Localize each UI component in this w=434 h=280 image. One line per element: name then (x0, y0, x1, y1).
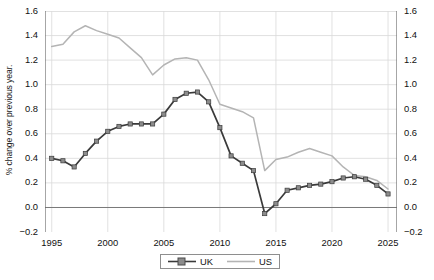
series-marker-uk (61, 159, 65, 163)
legend-swatch-us-icon (226, 256, 256, 267)
y-axis-tick-label-right: 1.0 (404, 79, 430, 89)
series-marker-uk (341, 176, 345, 180)
legend-label-uk: UK (200, 257, 213, 267)
x-axis-tick-label: 1995 (30, 237, 74, 248)
series-marker-uk (173, 97, 177, 101)
y-axis-tick-label-right: 0.4 (404, 153, 430, 163)
chart-legend: UK US (160, 254, 280, 269)
series-marker-uk (151, 122, 155, 126)
series-marker-uk (50, 156, 54, 160)
series-marker-uk (274, 202, 278, 206)
y-axis-tick-label-right: 1.6 (404, 6, 430, 16)
series-marker-uk (319, 182, 323, 186)
y-axis-tick-label-right: 0.2 (404, 177, 430, 187)
series-marker-uk (195, 90, 199, 94)
series-marker-uk (83, 151, 87, 155)
y-axis-title: % change over previous year. (0, 0, 18, 240)
y-axis-tick-label-right: 0.0 (404, 202, 430, 212)
series-marker-uk (106, 129, 110, 133)
series-marker-uk (330, 180, 334, 184)
series-marker-uk (240, 161, 244, 165)
x-axis-tick-label: 2005 (142, 237, 186, 248)
series-marker-uk (218, 126, 222, 130)
legend-item-us: US (226, 256, 272, 267)
plot-svg (45, 11, 397, 232)
series-marker-uk (117, 124, 121, 128)
series-marker-uk (162, 112, 166, 116)
x-axis-tick-label: 2000 (86, 237, 130, 248)
legend-label-us: US (259, 257, 272, 267)
legend-swatch-uk-icon (167, 256, 197, 267)
y-axis-title-text: % change over previous year. (4, 65, 14, 175)
y-axis-tick-label-right: 1.4 (404, 30, 430, 40)
series-marker-uk (94, 139, 98, 143)
series-marker-uk (285, 188, 289, 192)
chart-container: % change over previous year. −0.2−0.20.0… (0, 0, 434, 280)
y-axis-tick-label-right: 0.8 (404, 104, 430, 114)
y-axis-tick-label-right: 0.6 (404, 128, 430, 138)
series-marker-uk (139, 122, 143, 126)
series-marker-uk (229, 154, 233, 158)
x-axis-tick-label: 2020 (310, 237, 354, 248)
x-axis-tick-label: 2010 (198, 237, 242, 248)
legend-item-uk: UK (167, 256, 213, 267)
x-axis-tick-label: 2015 (254, 237, 298, 248)
plot-area (45, 11, 397, 232)
series-marker-uk (375, 183, 379, 187)
series-marker-uk (251, 169, 255, 173)
series-marker-uk (352, 175, 356, 179)
series-marker-uk (184, 91, 188, 95)
series-marker-uk (307, 183, 311, 187)
series-marker-uk (364, 177, 368, 181)
series-marker-uk (72, 165, 76, 169)
y-axis-tick-label-right: −0.2 (404, 227, 430, 237)
series-marker-uk (207, 100, 211, 104)
y-axis-tick-label-right: 1.2 (404, 55, 430, 65)
series-marker-uk (128, 122, 132, 126)
series-marker-uk (386, 192, 390, 196)
series-marker-uk (263, 211, 267, 215)
x-axis-tick-label: 2025 (366, 237, 410, 248)
series-marker-uk (296, 186, 300, 190)
